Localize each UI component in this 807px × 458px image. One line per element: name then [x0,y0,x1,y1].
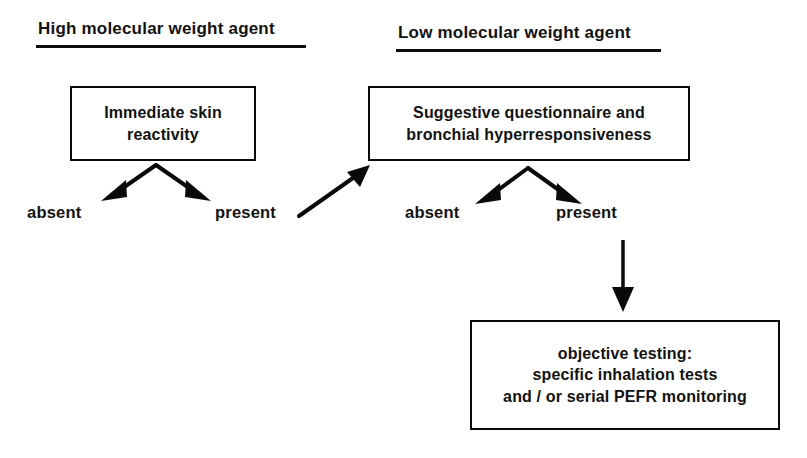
arrow-questionnaire-to-absent [475,168,528,204]
box-objective-testing-text: objective testing: specific inhalation t… [503,343,747,406]
arrow-questionnaire-to-present [528,168,582,204]
heading-underline-low-molecular-weight [396,49,661,52]
arrow-present-to-objective-testing [612,240,634,312]
box-immediate-skin-reactivity: Immediate skin reactivity [70,86,256,161]
heading-low-molecular-weight-agent: Low molecular weight agent [398,23,631,43]
arrow-present-to-questionnaire-box [299,165,370,216]
heading-high-molecular-weight-agent: High molecular weight agent [38,19,275,39]
arrow-skin-reactivity-to-present [156,165,211,201]
edge-label-right-present: present [556,203,617,222]
box-objective-testing: objective testing: specific inhalation t… [470,320,780,430]
edge-label-right-absent: absent [405,203,459,222]
box-questionnaire-bhr-text: Suggestive questionnaire and bronchial h… [406,102,651,144]
arrow-skin-reactivity-to-absent [101,165,156,201]
box-suggestive-questionnaire-and-bronchial-hyperresponsiveness: Suggestive questionnaire and bronchial h… [368,86,690,161]
heading-underline-high-molecular-weight [36,45,306,48]
edge-label-left-absent: absent [27,203,81,222]
box-immediate-skin-reactivity-text: Immediate skin reactivity [104,102,222,144]
flowchart-figure: High molecular weight agent Low molecula… [0,0,807,458]
edge-label-left-present: present [215,203,276,222]
